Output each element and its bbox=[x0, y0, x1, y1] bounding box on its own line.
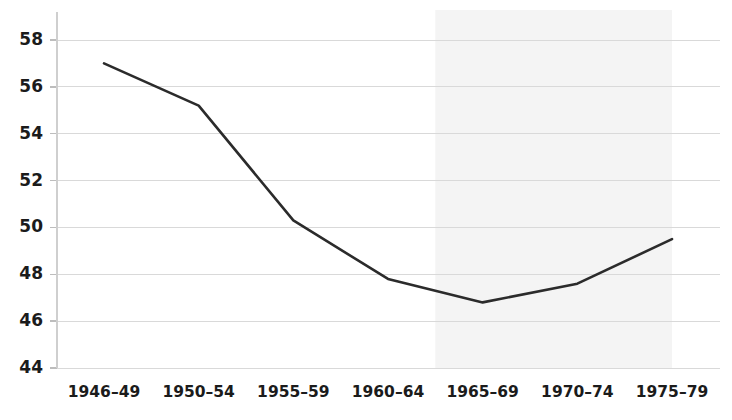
y-axis-tick-label: 44 bbox=[19, 357, 43, 377]
x-axis-tick-label: 1975–79 bbox=[636, 383, 708, 401]
y-axis-tick-label: 48 bbox=[19, 263, 43, 283]
x-axis-tick-label: 1950–54 bbox=[162, 383, 235, 401]
x-axis-tick-label: 1960–64 bbox=[352, 383, 425, 401]
y-axis-tick-label: 46 bbox=[19, 310, 43, 330]
y-axis-tick-label: 56 bbox=[19, 76, 43, 96]
y-axis-tick-label: 52 bbox=[19, 170, 43, 190]
highlight-band bbox=[435, 10, 672, 368]
x-axis-tick-label: 1970–74 bbox=[541, 383, 614, 401]
y-axis-tick-label: 50 bbox=[19, 216, 43, 236]
x-axis-tick-label: 1955–59 bbox=[257, 383, 329, 401]
y-axis-tick-label: 58 bbox=[19, 29, 43, 49]
chart-container: 44464850525456581946–491950–541955–59196… bbox=[0, 0, 732, 420]
x-axis-tick-label: 1946–49 bbox=[68, 383, 140, 401]
line-chart: 44464850525456581946–491950–541955–59196… bbox=[0, 0, 732, 420]
y-axis-tick-label: 54 bbox=[19, 123, 43, 143]
x-axis-tick-label: 1965–69 bbox=[446, 383, 518, 401]
